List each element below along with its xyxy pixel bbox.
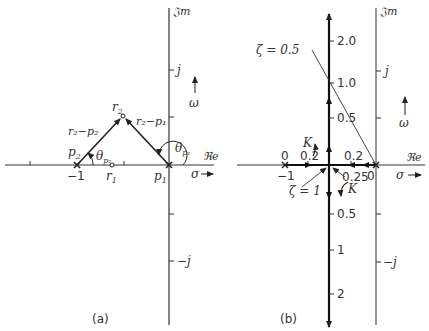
omega-label-b: ω [399,117,409,129]
imag-axis-label-a: 𝔍m [173,6,190,17]
gain-2.0-label: 2.0 [337,35,356,47]
imag-axis-label-b: 𝔍m [380,6,397,17]
gain-0.2-right-label: 0.2 [344,150,363,162]
vector-r2-p1-label: r₂−p₁ [136,116,166,127]
real-axis-label-b: ℜe [406,152,422,163]
gain-0.5-upper-label: 0.5 [337,112,356,124]
tick-j-b: j [385,65,389,77]
zero-r2-label: r2 [112,101,123,116]
zero-r1-label: r1 [106,170,117,185]
sigma-label-b: σ [396,169,404,181]
gain-2-lower-label: 2 [337,288,345,300]
zeta-1-label: ζ = 1 [289,185,321,197]
pole-p1-label: p1 [154,170,167,185]
theta-p2-arc [88,153,93,165]
root-locus-diagram [0,0,429,331]
tick-j-a: j [177,64,181,76]
k-arrow-lower [341,182,348,196]
panel-a-axes [5,8,214,325]
tick-minus-1-b: −1 [277,170,295,182]
tick-minus-j-a: −j [177,255,191,267]
caption-b: (b) [280,313,297,325]
real-axis-label-a: ℜe [203,151,219,162]
gain-1-lower-label: 1 [337,244,345,256]
pole-p2-label: p2 [68,146,81,161]
sigma-label-a: σ [191,168,199,180]
vector-r2-p2-label: r₂−p₂ [68,126,98,137]
zeta-05-line [312,50,376,165]
gain-1.0-label: 1.0 [337,77,356,89]
k-label-lower: K [348,183,357,195]
theta-p2-label: θp₂ [96,150,112,165]
gain-0-left-label: 0 [281,150,289,162]
k-label-upper: K [303,137,312,149]
theta-p1-label: θp₁ [175,142,191,157]
gain-0.5-lower-label: 0.5 [337,208,356,220]
tick-minus-j-b: −j [383,256,397,268]
gain-0.2-left-label: 0.2 [300,150,319,162]
zeta-05-label: ζ = 0.5 [256,44,299,56]
caption-a: (a) [92,313,109,325]
omega-label-a: ω [189,97,199,109]
tick-minus-1-a: −1 [67,170,85,182]
